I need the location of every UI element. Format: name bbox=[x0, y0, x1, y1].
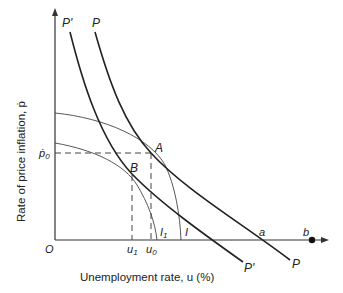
y-axis-arrow-icon bbox=[52, 8, 58, 16]
curve-I bbox=[55, 113, 181, 240]
x-axis-title: Unemployment rate, u (%) bbox=[80, 271, 214, 283]
label-P-top: P bbox=[92, 16, 100, 30]
label-point-B: B bbox=[130, 161, 138, 175]
tick-label-p0: ṗ0 bbox=[38, 147, 50, 161]
label-P-prime-bottom: P' bbox=[244, 261, 255, 275]
label-point-a: a bbox=[259, 226, 265, 238]
x-axis-arrow-icon bbox=[321, 237, 329, 243]
label-P-prime-top: P' bbox=[62, 16, 73, 30]
label-curve-I: I bbox=[185, 226, 188, 238]
phillips-curve-diagram: P' P P' P A B a b I I1 O ṗ0 u1 u0 Unempl… bbox=[0, 0, 343, 293]
label-P-bottom: P bbox=[292, 257, 300, 271]
label-point-A: A bbox=[154, 141, 163, 155]
point-b-dot bbox=[309, 237, 315, 243]
tick-label-u1: u1 bbox=[127, 243, 138, 257]
label-origin: O bbox=[45, 243, 54, 255]
label-point-b: b bbox=[303, 226, 309, 238]
y-axis-title: Rate of price inflation, ṗ bbox=[15, 101, 27, 222]
label-curve-I1: I1 bbox=[160, 226, 168, 240]
curve-I1 bbox=[55, 143, 157, 240]
tick-label-u0: u0 bbox=[146, 243, 157, 257]
